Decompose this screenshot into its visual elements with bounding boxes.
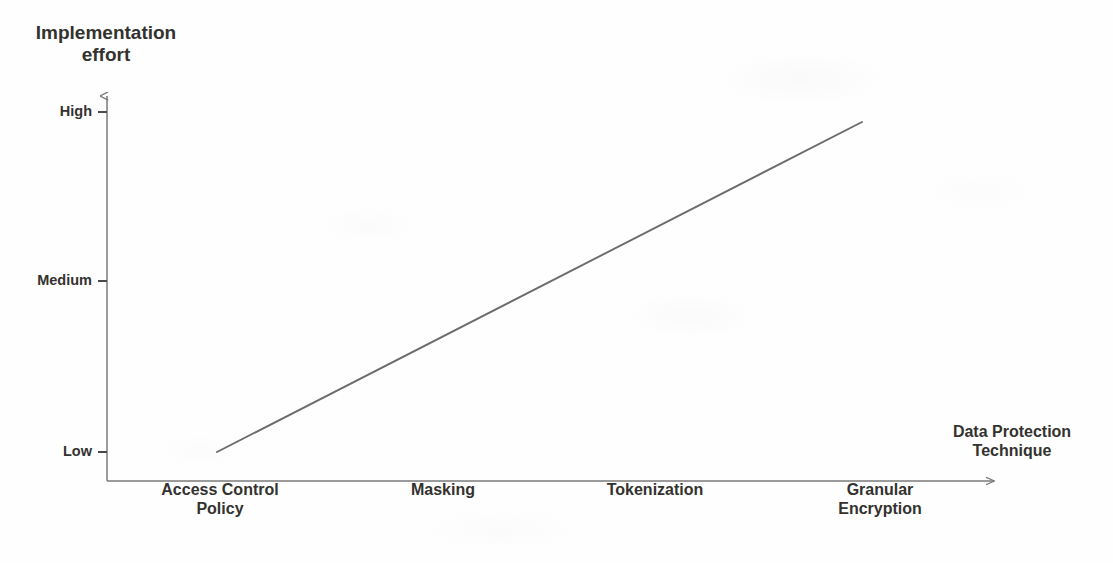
y-tick-label-medium: Medium xyxy=(0,272,92,289)
x-tick-label-line-2: Policy xyxy=(105,500,335,519)
chart-plot-area xyxy=(0,0,1113,563)
x-tick-label-access-control-policy: Access Control Policy xyxy=(105,481,335,519)
x-tick-label-line-1: Tokenization xyxy=(540,481,770,500)
y-tick-label-high: High xyxy=(0,103,92,120)
x-tick-label-line-1: Masking xyxy=(328,481,558,500)
x-tick-label-granular-encryption: Granular Encryption xyxy=(765,481,995,519)
trend-line xyxy=(217,122,862,452)
x-tick-label-line-1: Granular xyxy=(765,481,995,500)
x-tick-label-tokenization: Tokenization xyxy=(540,481,770,500)
x-axis-title-line-1: Data Protection xyxy=(928,423,1096,442)
y-tick-label-low: Low xyxy=(0,443,92,460)
x-axis-title-line-2: Technique xyxy=(928,442,1096,461)
x-tick-label-line-2: Encryption xyxy=(765,500,995,519)
y-axis-title-line-2: effort xyxy=(22,44,190,66)
x-axis-title: Data Protection Technique xyxy=(928,423,1096,461)
y-axis-title: Implementation effort xyxy=(22,22,190,67)
y-axis-title-line-1: Implementation xyxy=(22,22,190,44)
x-tick-label-masking: Masking xyxy=(328,481,558,500)
x-tick-label-line-1: Access Control xyxy=(105,481,335,500)
chart-canvas: Implementation effort Data Protection Te… xyxy=(0,0,1113,563)
